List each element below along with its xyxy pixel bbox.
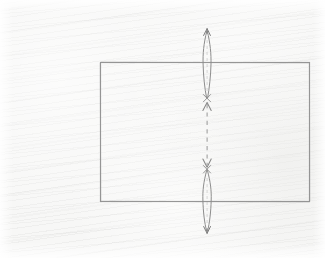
bottom-lens-symbol [203, 170, 211, 231]
rectangle-outline [101, 63, 310, 202]
top-lens-symbol [203, 31, 211, 98]
top-lens-right-arc [207, 31, 211, 98]
top-lens-bottom-pinch [203, 95, 210, 102]
drawing-layer: Rectangle with paired lens symbols on a … [0, 0, 325, 258]
bottom-lens-right-arc [207, 170, 211, 231]
top-lens-left-arc [203, 31, 207, 98]
scanned-sheet: Rectangle with paired lens symbols on a … [0, 0, 325, 258]
rectangle-outline-group [100, 62, 310, 202]
diagram-canvas: Rectangle with paired lens symbols on a … [0, 0, 325, 258]
top-tip-arrowhead [204, 29, 211, 36]
bottom-tip-arrowhead [204, 227, 211, 234]
bottom-lens-left-arc [203, 170, 207, 231]
